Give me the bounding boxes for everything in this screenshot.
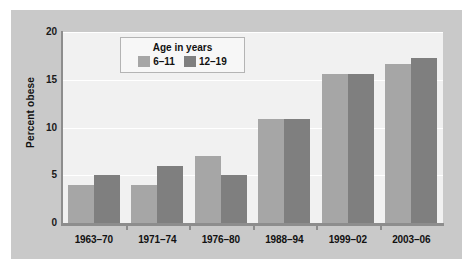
legend-item: 12–19 (184, 56, 227, 67)
x-axis-tick-labels: 1963–701971–741976–801988–941999–022003–… (62, 234, 443, 250)
y-axis-title: Percent obese (25, 63, 36, 163)
bar (258, 119, 284, 223)
bar (68, 185, 94, 223)
x-axis-tick-label: 1988–94 (253, 234, 317, 250)
bar (322, 74, 348, 223)
y-axis-tick-label: 0 (27, 218, 57, 228)
legend-items: 6–1112–19 (127, 56, 238, 67)
legend-label: 12–19 (199, 56, 227, 67)
bar-group (380, 32, 444, 223)
x-axis-tick-label: 1963–70 (62, 234, 126, 250)
x-axis-tick-mark (189, 226, 191, 230)
bar (348, 74, 374, 223)
bar (284, 119, 310, 223)
bar (385, 64, 411, 223)
legend-label: 6–11 (153, 56, 175, 67)
bar (131, 185, 157, 223)
bar (411, 58, 437, 223)
x-axis-tick-label: 1976–80 (189, 234, 253, 250)
y-axis-tick-label: 5 (27, 170, 57, 180)
legend-title: Age in years (127, 42, 238, 53)
bar-group (316, 32, 380, 223)
x-axis-tick-mark (253, 226, 255, 230)
bar (221, 175, 247, 223)
x-axis-tick-label: 1971–74 (126, 234, 190, 250)
legend-item: 6–11 (138, 56, 175, 67)
bar (195, 156, 221, 223)
bar-group (62, 32, 126, 223)
bar-group (253, 32, 317, 223)
legend-swatch (138, 56, 150, 67)
x-axis-tick-mark (380, 226, 382, 230)
chart-figure: 05101520 Percent obese 1963–701971–74197… (11, 10, 462, 259)
legend-swatch (184, 56, 196, 67)
chart-legend: Age in years 6–1112–19 (120, 37, 245, 73)
bar (157, 166, 183, 223)
x-axis-tick-label: 1999–02 (316, 234, 380, 250)
bar (94, 175, 120, 223)
x-axis-tick-mark (126, 226, 128, 230)
x-axis-tick-mark (316, 226, 318, 230)
x-axis-tick-label: 2003–06 (380, 234, 444, 250)
y-axis-tick-label: 20 (27, 27, 57, 37)
